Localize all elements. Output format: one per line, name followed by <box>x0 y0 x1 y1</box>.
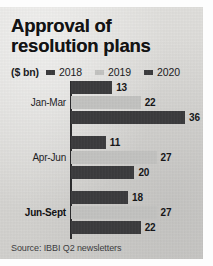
page-edge-top <box>0 0 213 7</box>
bar-apr-jun-2019 <box>71 151 157 164</box>
bar-row: 27 <box>71 206 171 219</box>
legend-item-2019: 2019 <box>95 66 131 78</box>
legend-label-2020: 2020 <box>157 66 180 78</box>
bar-value-label: 27 <box>161 207 172 218</box>
bar-jun-sept-2019 <box>71 206 157 219</box>
bar-jun-sept-2020 <box>71 221 141 234</box>
bar-row: 11 <box>71 136 120 149</box>
legend-swatch-2020-icon <box>144 70 153 75</box>
bar-row: 27 <box>71 151 171 164</box>
bar-jan-mar-2020 <box>71 111 185 124</box>
bar-group-jan-mar: Jan-Mar132236 <box>0 81 203 126</box>
bar-value-label: 22 <box>145 97 156 108</box>
legend-label-2019: 2019 <box>108 66 131 78</box>
bar-row: 22 <box>71 221 155 234</box>
bar-value-label: 27 <box>161 152 172 163</box>
bar-value-label: 36 <box>189 112 200 123</box>
category-label-jan-mar: Jan-Mar <box>0 97 66 108</box>
bar-row: 20 <box>71 166 149 179</box>
page-edge-bottom <box>0 259 213 266</box>
legend-swatch-2019-icon <box>95 70 104 75</box>
bar-jun-sept-2018 <box>71 191 128 204</box>
bar-row: 22 <box>71 96 155 109</box>
page-edge-right <box>203 0 213 266</box>
bar-group-jun-sept: Jun-Sept182722 <box>0 191 203 236</box>
legend-swatch-2018-icon <box>46 70 55 75</box>
category-label-apr-jun: Apr-Jun <box>0 152 66 163</box>
legend-unit-label: ($ bn) <box>11 66 39 78</box>
chart-legend: ($ bn) 2018 2019 2020 <box>11 65 203 79</box>
legend-item-2018: 2018 <box>46 66 82 78</box>
bar-value-label: 13 <box>116 82 127 93</box>
chart-title-block: Approval of resolution plans <box>11 16 191 55</box>
bar-row: 18 <box>71 191 143 204</box>
bar-jan-mar-2018 <box>71 81 112 94</box>
chart-figure: Approval of resolution plans ($ bn) 2018… <box>0 7 203 259</box>
chart-title-line-2: resolution plans <box>11 36 191 56</box>
bar-value-label: 20 <box>138 167 149 178</box>
bar-value-label: 18 <box>132 192 143 203</box>
legend-item-2020: 2020 <box>144 66 180 78</box>
bar-apr-jun-2020 <box>71 166 134 179</box>
bar-value-label: 22 <box>145 222 156 233</box>
bar-apr-jun-2018 <box>71 136 106 149</box>
category-label-jun-sept: Jun-Sept <box>0 207 66 218</box>
legend-label-2018: 2018 <box>59 66 82 78</box>
chart-title-line-1: Approval of <box>11 16 191 36</box>
chart-source-note: Source: IBBI Q2 newsletters <box>11 243 121 253</box>
bar-row: 36 <box>71 111 200 124</box>
bar-jan-mar-2019 <box>71 96 141 109</box>
bar-row: 13 <box>71 81 127 94</box>
bar-value-label: 11 <box>110 137 120 148</box>
bar-group-apr-jun: Apr-Jun112720 <box>0 136 203 181</box>
plot-area: Jan-Mar132236Apr-Jun112720Jun-Sept182722 <box>0 81 203 239</box>
